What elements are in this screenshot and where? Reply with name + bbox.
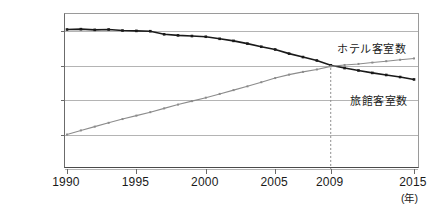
data-point-marker [302, 71, 304, 73]
data-point-marker [274, 77, 276, 79]
data-point-marker [93, 29, 96, 32]
data-point-marker [385, 74, 388, 77]
x-axis-tick [414, 169, 415, 174]
data-point-marker [177, 104, 179, 106]
data-point-marker [191, 100, 193, 102]
data-point-marker [80, 129, 82, 131]
x-axis-tick [136, 169, 137, 174]
data-point-marker [330, 65, 332, 67]
data-point-marker [399, 76, 402, 79]
data-point-marker [357, 63, 359, 65]
x-axis-tick [275, 169, 276, 174]
data-point-marker [371, 72, 374, 75]
x-axis-tick-label: 2005 [260, 175, 288, 189]
x-axis-tick-label: 2009 [316, 175, 344, 189]
data-point-marker [163, 107, 165, 109]
data-point-marker [344, 64, 346, 66]
line-chart: 1,000,00080,00060,00040,000 199019952000… [0, 0, 439, 209]
series-label-hotel: ホテル客室数 [337, 40, 406, 56]
data-point-marker [122, 118, 124, 120]
data-point-marker [121, 29, 124, 32]
x-axis-tick [206, 169, 207, 174]
data-point-marker [343, 67, 346, 70]
data-point-marker [94, 126, 96, 128]
plot-area [64, 13, 419, 168]
data-point-marker [80, 28, 83, 31]
data-point-marker [316, 59, 319, 62]
data-point-marker [357, 69, 360, 72]
data-point-marker [246, 85, 248, 87]
data-point-marker [288, 52, 291, 55]
data-point-marker [232, 40, 235, 43]
gridline [65, 169, 418, 170]
data-point-marker [135, 30, 138, 33]
data-point-marker [316, 68, 318, 70]
data-point-marker [108, 122, 110, 124]
data-point-marker [371, 62, 373, 64]
series-label-ryokan: 旅館客室数 [350, 92, 408, 108]
data-point-marker [66, 28, 69, 31]
x-axis-tick [67, 169, 68, 174]
data-point-marker [385, 60, 387, 62]
x-axis-tick-label: 2015 [399, 175, 427, 189]
x-axis-tick-label: 1990 [52, 175, 80, 189]
data-point-marker [149, 111, 151, 113]
data-point-marker [177, 34, 180, 37]
data-point-marker [274, 48, 277, 51]
x-axis-tick-label: 1995 [122, 175, 150, 189]
data-point-marker [246, 42, 249, 45]
x-axis-tick [331, 169, 332, 174]
data-point-marker [191, 35, 194, 38]
x-axis-unit-label: (年) [401, 190, 418, 205]
data-point-marker [233, 89, 235, 91]
data-point-marker [163, 33, 166, 36]
data-point-marker [66, 134, 68, 136]
data-point-marker [260, 81, 262, 83]
data-point-marker [205, 97, 207, 99]
data-point-marker [218, 38, 221, 41]
data-point-marker [149, 30, 152, 33]
data-point-marker [413, 78, 416, 81]
data-point-marker [260, 45, 263, 48]
x-axis-tick-label: 2000 [191, 175, 219, 189]
data-point-marker [413, 57, 415, 59]
data-point-marker [205, 35, 208, 38]
data-point-marker [135, 115, 137, 117]
data-point-marker [219, 93, 221, 95]
data-point-marker [288, 74, 290, 76]
data-point-marker [302, 56, 305, 59]
data-point-marker [399, 59, 401, 61]
data-point-marker [107, 28, 110, 31]
